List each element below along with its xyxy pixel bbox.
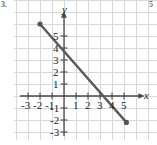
plot-canvas <box>0 0 157 145</box>
y-tick-label-neg1: -1 <box>50 103 59 114</box>
page-corner-mark: 5 <box>149 1 153 9</box>
x-tick-label-neg3: -3 <box>21 100 30 111</box>
y-tick-label-1: 1 <box>53 79 59 90</box>
y-tick-label-2: 2 <box>53 67 59 78</box>
y-tick-label-3: 3 <box>53 55 59 66</box>
x-axis-label: x <box>144 90 149 101</box>
x-tick-label-4: 4 <box>109 100 115 111</box>
problem-number-mark: 3. <box>1 1 7 9</box>
x-tick-label-2: 2 <box>85 100 91 111</box>
y-tick-label-neg2: -2 <box>50 115 59 126</box>
y-tick-label-5: 5 <box>53 31 59 42</box>
endpoint-dot-upper-left <box>37 21 42 26</box>
x-tick-label-3: 3 <box>97 100 103 111</box>
y-tick-label-4: 4 <box>53 43 59 54</box>
x-tick-label-neg2: -2 <box>33 100 42 111</box>
coordinate-graph-figure: -3 -2 -1 1 2 3 4 5 5 4 3 2 1 -1 -2 -3 x … <box>0 0 157 145</box>
y-axis-label: y <box>62 4 67 15</box>
x-tick-label-1: 1 <box>73 100 79 111</box>
y-tick-label-neg3: -3 <box>50 127 59 138</box>
x-tick-label-5: 5 <box>121 100 127 111</box>
endpoint-dot-lower-right <box>124 120 129 125</box>
